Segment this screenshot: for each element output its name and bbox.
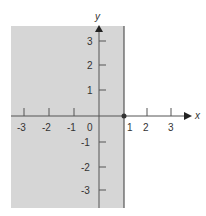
x-tick-label: -2 (42, 122, 51, 133)
x-axis-arrow-icon (184, 112, 192, 120)
x-tick-label: 3 (168, 122, 174, 133)
x-tick-label: -3 (17, 122, 26, 133)
y-tick-label: 3 (87, 36, 93, 47)
x-axis-label: x (194, 110, 201, 121)
y-axis-label: y (94, 11, 101, 22)
x-tick-label: 1 (127, 122, 133, 133)
x-tick-label: 2 (143, 122, 149, 133)
shaded-region (11, 26, 124, 208)
y-tick-label: -2 (81, 162, 90, 173)
y-tick-label: 1 (87, 85, 93, 96)
x-tick-label: 0 (87, 122, 93, 133)
x-tick-label: -1 (67, 122, 76, 133)
inequality-graph: y x -3 -2 -1 0 1 2 3 3 2 1 -1 -2 -3 (0, 0, 206, 216)
y-tick-label: -3 (81, 185, 90, 196)
boundary-point (122, 114, 127, 119)
y-tick-label: 2 (87, 60, 93, 71)
y-tick-label: -1 (81, 137, 90, 148)
